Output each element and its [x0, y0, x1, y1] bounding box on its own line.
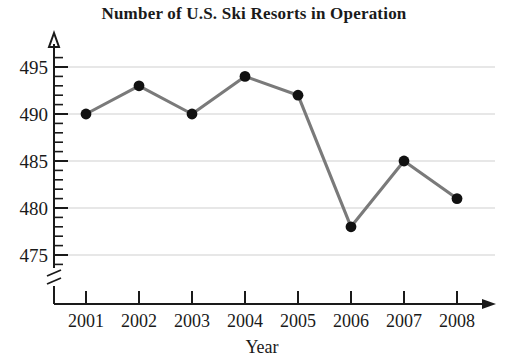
data-point-2003: [187, 109, 198, 120]
data-point-2007: [399, 156, 410, 167]
data-point-2004: [240, 71, 251, 82]
xtick-label-2008: 2008: [439, 311, 475, 331]
ytick-label-490: 490: [20, 104, 49, 125]
xtick-label-2003: 2003: [174, 311, 210, 331]
y-axis-break-icon: [47, 270, 61, 284]
x-axis-label: Year: [245, 337, 278, 357]
ytick-label-495: 495: [20, 57, 49, 78]
xtick-label-2004: 2004: [227, 311, 263, 331]
xtick-label-2002: 2002: [121, 311, 157, 331]
data-point-2002: [134, 80, 145, 91]
ski-resorts-line-chart: Number of U.S. Ski Resorts in Operation: [0, 0, 508, 364]
data-point-2005: [293, 90, 304, 101]
y-axis: [47, 33, 61, 304]
x-ticks: [86, 291, 457, 304]
x-axis-arrow: [482, 299, 496, 309]
ytick-label-480: 480: [20, 198, 49, 219]
xtick-label-2006: 2006: [333, 311, 369, 331]
xtick-label-2001: 2001: [68, 311, 104, 331]
data-point-2008: [452, 193, 463, 204]
data-point-2001: [81, 109, 92, 120]
ytick-label-475: 475: [20, 245, 49, 266]
xtick-label-2007: 2007: [386, 311, 422, 331]
chart-canvas: 495 490 485 480 475 2001 2002 2003 2004 …: [0, 0, 508, 364]
series-line: [86, 76, 457, 226]
xtick-label-2005: 2005: [280, 311, 316, 331]
data-point-2006: [346, 221, 357, 232]
x-axis: [54, 299, 496, 309]
ytick-label-485: 485: [20, 151, 49, 172]
